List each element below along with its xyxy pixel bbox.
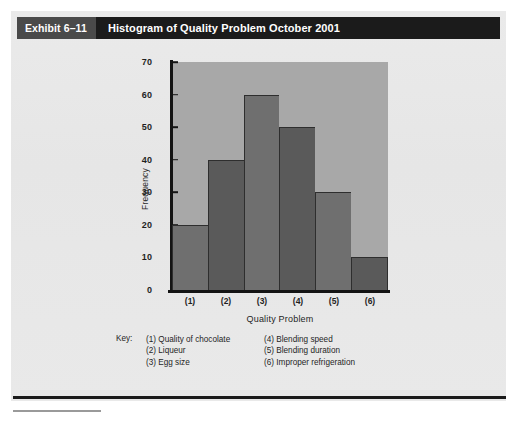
- exhibit-title: Histogram of Quality Problem October 200…: [96, 17, 340, 39]
- histogram-bar: [279, 127, 315, 290]
- key-item: (2) Liqueur: [146, 345, 264, 356]
- y-tick-label: 0: [147, 285, 152, 295]
- x-axis-line: [168, 290, 390, 293]
- y-tick-label: 70: [142, 57, 152, 67]
- y-tick-label: 40: [142, 155, 152, 165]
- y-tick-label: 60: [142, 90, 152, 100]
- x-axis-tick-labels: (1)(2)(3)(4)(5)(6): [172, 296, 388, 306]
- histogram-bar: [244, 95, 280, 290]
- x-axis-title: Quality Problem: [172, 314, 388, 324]
- screenshot-root: Exhibit 6–11 Histogram of Quality Proble…: [0, 0, 519, 421]
- x-tick-label: (6): [352, 296, 388, 306]
- bottom-rule: [13, 396, 506, 399]
- y-tick-label: 30: [142, 187, 152, 197]
- key-item: (1) Quality of chocolate: [146, 334, 264, 345]
- histogram-bar: [351, 257, 388, 290]
- histogram-bar: [315, 192, 351, 290]
- x-tick-label: (1): [172, 296, 208, 306]
- key-item: (5) Blending duration: [264, 345, 382, 356]
- key-column-1: (1) Quality of chocolate(2) Liqueur(3) E…: [146, 334, 264, 368]
- chart-key: Key: (1) Quality of chocolate(2) Liqueur…: [116, 334, 382, 368]
- key-item: (6) Improper refrigeration: [264, 357, 382, 368]
- exhibit-header-bar: Exhibit 6–11 Histogram of Quality Proble…: [17, 17, 500, 39]
- histogram-bar: [208, 160, 244, 290]
- y-tick-label: 10: [142, 252, 152, 262]
- footnote-rule: [13, 410, 101, 412]
- key-column-2: (4) Blending speed(5) Blending duration(…: [264, 334, 382, 368]
- y-tick-label: 20: [142, 220, 152, 230]
- y-tick-label: 50: [142, 122, 152, 132]
- histogram-bar: [172, 225, 208, 290]
- key-item: (3) Egg size: [146, 357, 264, 368]
- exhibit-number: Exhibit 6–11: [17, 17, 96, 39]
- y-axis-tick-labels: 010203040506070: [126, 56, 152, 290]
- x-tick-label: (5): [316, 296, 352, 306]
- x-tick-label: (4): [280, 296, 316, 306]
- x-tick-label: (3): [244, 296, 280, 306]
- x-tick-label: (2): [208, 296, 244, 306]
- histogram-chart: Frequency 010203040506070 (1)(2)(3)(4)(5…: [108, 56, 408, 356]
- key-item: (4) Blending speed: [264, 334, 382, 345]
- key-label: Key:: [116, 334, 146, 343]
- bar-series: [172, 62, 388, 290]
